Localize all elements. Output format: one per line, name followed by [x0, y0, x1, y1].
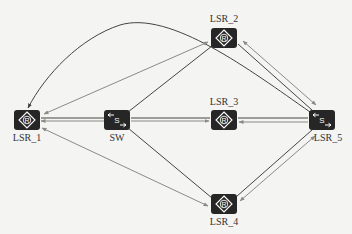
link-lsr4-lsr5-b: [240, 136, 315, 201]
links-layer: [0, 0, 352, 234]
node-lsr-3[interactable]: R: [211, 110, 237, 130]
svg-text:R: R: [24, 117, 29, 124]
link-lsr2-lsr5-a: [238, 44, 312, 110]
link-lsr5-lsr1-curve: [28, 23, 310, 112]
link-lsr2-lsr1: [44, 42, 208, 114]
svg-text:R: R: [221, 35, 226, 42]
node-label-lsr-2: LSR_2: [210, 14, 238, 24]
svg-text:R: R: [221, 117, 226, 124]
router-icon: R: [18, 111, 36, 129]
router-icon: R: [215, 29, 233, 47]
router-icon: R: [215, 111, 233, 129]
link-lsr1-lsr4: [42, 128, 208, 206]
node-label-lsr-5: LSR_5: [314, 133, 342, 143]
link-sw-lsr2: [128, 46, 212, 112]
node-label-sw: SW: [110, 133, 125, 143]
node-sw[interactable]: S: [104, 110, 130, 130]
svg-text:S: S: [319, 116, 324, 125]
svg-text:S: S: [114, 116, 119, 125]
link-lsr4-lsr5-a: [236, 130, 312, 197]
network-topology-diagram: R LSR_1 S SW R LSR_2 R LSR_3: [0, 0, 352, 234]
node-lsr-5[interactable]: S: [309, 110, 335, 130]
router-icon: R: [215, 195, 233, 213]
switch-icon: S: [309, 110, 335, 130]
switch-icon: S: [104, 110, 130, 130]
node-lsr-1[interactable]: R: [14, 110, 40, 130]
node-label-lsr-1: LSR_1: [13, 133, 41, 143]
svg-text:R: R: [221, 201, 226, 208]
link-sw-lsr4: [128, 128, 212, 198]
node-lsr-2[interactable]: R: [211, 28, 237, 48]
node-label-lsr-4: LSR_4: [210, 217, 238, 227]
node-label-lsr-3: LSR_3: [210, 97, 238, 107]
node-lsr-4[interactable]: R: [211, 194, 237, 214]
